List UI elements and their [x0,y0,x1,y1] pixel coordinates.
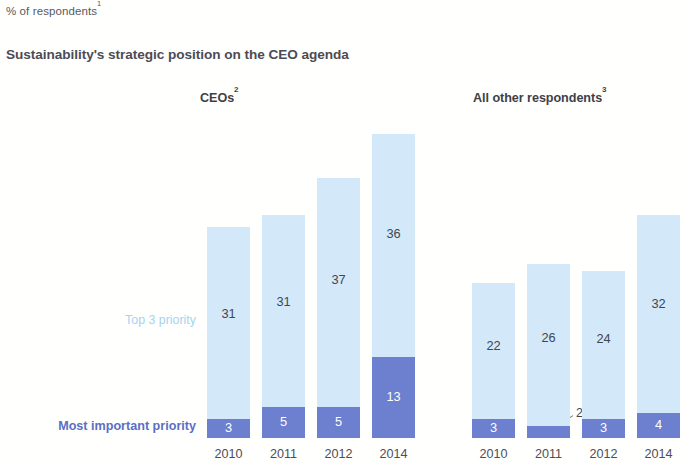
segment-top-3-priority-all-other-respondents-2012[interactable]: 24 [582,271,625,420]
segment-most-important-priority-all-other-respondents-2011[interactable] [527,426,570,438]
value-label-top-3-priority-all-other-respondents-2010: 22 [472,340,515,353]
bar-all-other-respondents-2012[interactable]: 243 [582,271,625,438]
segment-top-3-priority-all-other-respondents-2014[interactable]: 32 [637,215,680,413]
bar-all-other-respondents-2010[interactable]: 223 [472,283,515,438]
bar-all-other-respondents-2011[interactable]: 26 [527,264,570,438]
segment-most-important-priority-all-other-respondents-2014[interactable]: 4 [637,413,680,438]
segment-most-important-priority-all-other-respondents-2012[interactable]: 3 [582,419,625,438]
segment-top-3-priority-all-other-respondents-2010[interactable]: 22 [472,283,515,419]
segment-top-3-priority-all-other-respondents-2011[interactable]: 26 [527,264,570,425]
segment-most-important-priority-all-other-respondents-2010[interactable]: 3 [472,419,515,438]
x-axis-tick-all-other-respondents-2014: 2014 [633,448,684,461]
x-axis-tick-all-other-respondents-2012: 2012 [578,448,629,461]
bar-all-other-respondents-2014[interactable]: 324 [637,215,680,438]
value-label-most-important-priority-all-other-respondents-2012: 3 [582,422,625,435]
value-label-most-important-priority-all-other-respondents-2010: 3 [472,422,515,435]
value-label-top-3-priority-all-other-respondents-2011: 26 [527,332,570,345]
x-axis-tick-all-other-respondents-2010: 2010 [468,448,519,461]
x-axis-tick-all-other-respondents-2011: 2011 [523,448,574,461]
value-label-top-3-priority-all-other-respondents-2012: 24 [582,333,625,346]
value-label-top-3-priority-all-other-respondents-2014: 32 [637,298,680,311]
value-label-most-important-priority-all-other-respondents-2014: 4 [637,419,680,432]
